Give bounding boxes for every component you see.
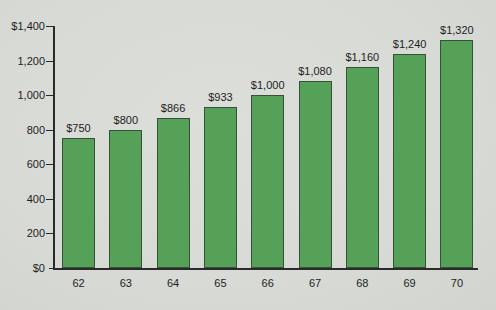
bar-value-label: $1,000	[238, 79, 298, 91]
bar-63	[109, 130, 142, 268]
y-axis-tick-label: 400	[0, 193, 45, 205]
bar-68	[346, 67, 379, 268]
bar-69	[393, 54, 426, 268]
bar-chart: $1,4001,2001,000800600400200$0$75062$800…	[0, 0, 496, 310]
y-axis-tick	[46, 26, 53, 27]
bar-value-label: $866	[143, 102, 203, 114]
y-axis-tick-label: 200	[0, 227, 45, 239]
y-axis-tick	[49, 268, 53, 269]
bar-value-label: $1,320	[427, 24, 487, 36]
x-axis-line	[53, 268, 478, 270]
bar-value-label: $1,160	[332, 51, 392, 63]
y-axis-tick	[46, 61, 53, 62]
x-axis-label: 64	[153, 277, 193, 289]
y-axis-tick	[46, 164, 53, 165]
y-axis-tick-label: $0	[0, 262, 45, 274]
screenshot-root: $1,4001,2001,000800600400200$0$75062$800…	[0, 0, 496, 310]
y-axis-tick-label: 1,200	[0, 55, 45, 67]
y-axis-tick	[46, 95, 53, 96]
bar-value-label: $1,080	[285, 65, 345, 77]
y-axis-tick-label: 600	[0, 158, 45, 170]
y-axis-tick	[46, 233, 53, 234]
bar-66	[251, 95, 284, 268]
x-axis-label: 65	[200, 277, 240, 289]
x-axis-label: 68	[342, 277, 382, 289]
bar-value-label: $800	[96, 114, 156, 126]
y-axis-tick	[46, 199, 53, 200]
bar-70	[440, 40, 473, 268]
bar-value-label: $1,240	[380, 38, 440, 50]
x-axis-label: 67	[295, 277, 335, 289]
x-axis-label: 63	[106, 277, 146, 289]
bar-62	[62, 138, 95, 268]
y-axis-tick-label: 1,000	[0, 89, 45, 101]
x-axis-label: 69	[390, 277, 430, 289]
y-axis-tick-label: $1,400	[0, 20, 45, 32]
bar-67	[299, 81, 332, 268]
x-axis-label: 62	[59, 277, 99, 289]
y-axis-tick-label: 800	[0, 124, 45, 136]
bar-64	[157, 118, 190, 268]
x-axis-label: 66	[248, 277, 288, 289]
bar-65	[204, 107, 237, 268]
bar-value-label: $933	[190, 91, 250, 103]
x-axis-label: 70	[437, 277, 477, 289]
y-axis-line	[53, 26, 55, 268]
